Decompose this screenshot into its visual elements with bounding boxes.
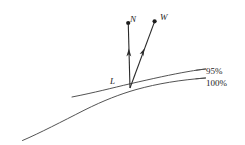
vector-w-endpoint-dot	[153, 19, 157, 23]
contour-label-95: 95%	[206, 67, 223, 76]
vector-line-w	[130, 23, 154, 88]
vector-label-w: W	[160, 13, 168, 22]
vector-label-n: N	[130, 15, 136, 24]
contour-label-100: 100%	[206, 79, 227, 88]
leader-line-100	[196, 78, 206, 79]
vector-line-n	[128, 25, 130, 89]
vector-contour-figure: N W L 95% 100%	[0, 0, 245, 145]
contour-curve-95	[72, 69, 206, 97]
origin-label-l: L	[110, 77, 115, 86]
